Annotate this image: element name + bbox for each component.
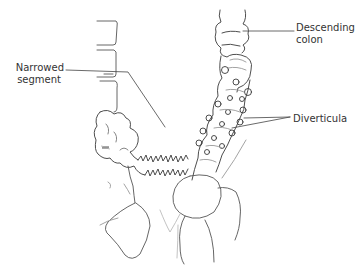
pelvis-left [100,166,150,258]
narrowed-segment [138,155,188,176]
label-diverticula: Diverticula [293,113,347,125]
label-narrowed-line2: segment [14,74,64,86]
label-descending-line1: Descending [296,22,355,34]
leader-lines [66,31,294,128]
sigmoid-colon-diverticula [192,56,252,180]
pelvis-right [160,175,241,264]
label-descending-line2: colon [296,34,355,46]
label-descending-colon: Descending colon [296,22,355,46]
label-narrowed-segment: Narrowed segment [14,62,64,86]
cecum [94,110,145,175]
spine-vertebrae [97,21,117,112]
label-narrowed-line1: Narrowed [14,62,64,74]
